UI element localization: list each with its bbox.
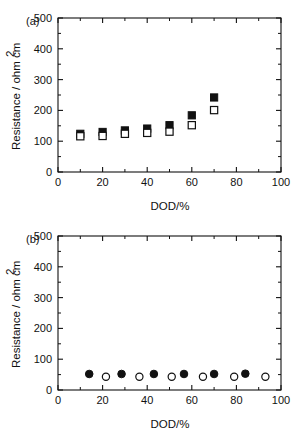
marker-open-square — [188, 122, 195, 129]
y-tick-label: 0 — [46, 166, 52, 178]
marker-filled-circle — [210, 370, 218, 378]
x-tick-label: 80 — [230, 176, 242, 188]
y-tick-label: 500 — [34, 230, 52, 242]
panel-a-y-axis-title-sup: 2 — [4, 51, 16, 57]
x-tick-label: 60 — [186, 394, 198, 406]
y-tick-label: 100 — [34, 135, 52, 147]
marker-filled-circle — [85, 370, 93, 378]
panel-a-svg: (a) Resistance / ohm cm 2 02040608010001… — [0, 0, 307, 218]
chart-panel-a: (a) Resistance / ohm cm 2 02040608010001… — [0, 0, 307, 218]
figure-container: (a) Resistance / ohm cm 2 02040608010001… — [0, 0, 307, 436]
marker-open-square — [166, 128, 173, 135]
chart-panel-b: (b) Resistance / ohm cm 2 02040608010001… — [0, 218, 307, 436]
y-tick-label: 300 — [34, 292, 52, 304]
marker-filled-circle — [242, 370, 250, 378]
panel-b-y-axis-title-sup: 2 — [4, 269, 16, 275]
marker-open-square — [99, 132, 106, 139]
marker-open-circle — [199, 373, 206, 380]
marker-open-square — [144, 129, 151, 136]
marker-open-circle — [168, 373, 175, 380]
x-tick-label: 100 — [272, 394, 290, 406]
y-tick-label: 400 — [34, 261, 52, 273]
marker-filled-circle — [118, 370, 126, 378]
panel-a-x-axis-title: DOD/% — [151, 200, 190, 212]
marker-open-circle — [136, 373, 143, 380]
marker-filled-circle — [180, 370, 188, 378]
x-tick-label: 0 — [55, 176, 61, 188]
y-tick-label: 0 — [46, 384, 52, 396]
x-tick-label: 100 — [272, 176, 290, 188]
panel-b-svg: (b) Resistance / ohm cm 2 02040608010001… — [0, 218, 307, 436]
marker-filled-square — [211, 94, 218, 101]
y-tick-label: 400 — [34, 43, 52, 55]
y-tick-label: 500 — [34, 12, 52, 24]
x-tick-label: 20 — [96, 176, 108, 188]
panel-b-x-axis-title: DOD/% — [151, 418, 190, 430]
y-tick-label: 300 — [34, 74, 52, 86]
marker-filled-square — [188, 112, 195, 119]
marker-filled-circle — [150, 370, 158, 378]
marker-open-square — [77, 133, 84, 140]
x-tick-label: 0 — [55, 394, 61, 406]
x-tick-label: 40 — [141, 394, 153, 406]
x-tick-label: 20 — [96, 394, 108, 406]
panel-a-y-axis-title-text: Resistance / ohm cm — [10, 43, 22, 150]
y-tick-label: 200 — [34, 104, 52, 116]
marker-open-circle — [102, 373, 109, 380]
marker-open-square — [211, 106, 218, 113]
panel-b-y-axis-title-text: Resistance / ohm cm — [10, 261, 22, 368]
marker-open-circle — [262, 373, 269, 380]
x-tick-label: 80 — [230, 394, 242, 406]
x-tick-label: 60 — [186, 176, 198, 188]
y-tick-label: 100 — [34, 353, 52, 365]
marker-open-circle — [231, 373, 238, 380]
x-tick-label: 40 — [141, 176, 153, 188]
marker-open-square — [121, 130, 128, 137]
y-tick-label: 200 — [34, 322, 52, 334]
